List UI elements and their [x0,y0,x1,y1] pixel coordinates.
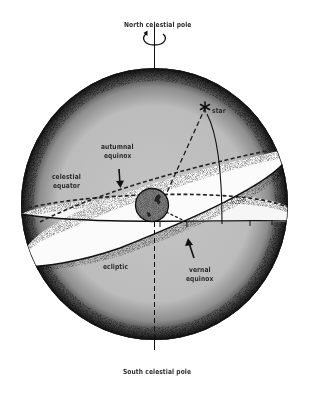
celestial-sphere-diagram [0,0,312,397]
vernal-equinox-label-line2: equinox [186,275,220,284]
south-pole-label: South celestial pole [123,368,191,377]
earth-icon [136,189,169,222]
vernal-equinox-label: vernal equinox [186,266,226,284]
autumnal-equinox-label-line1: autumnal [101,143,135,152]
star-label: star [212,107,226,116]
ecliptic-label: ecliptic [103,263,128,272]
celestial-equator-label: celestial equator [52,173,92,191]
autumnal-equinox-label: autumnal equinox [101,143,141,161]
autumnal-equinox-label-line2: equinox [104,152,138,161]
celestial-equator-label-line1: celestial [52,173,86,182]
celestial-equator-label-line2: equator [53,182,87,191]
north-pole-label: North celestial pole [124,21,191,30]
vernal-equinox-label-line1: vernal [189,266,223,275]
